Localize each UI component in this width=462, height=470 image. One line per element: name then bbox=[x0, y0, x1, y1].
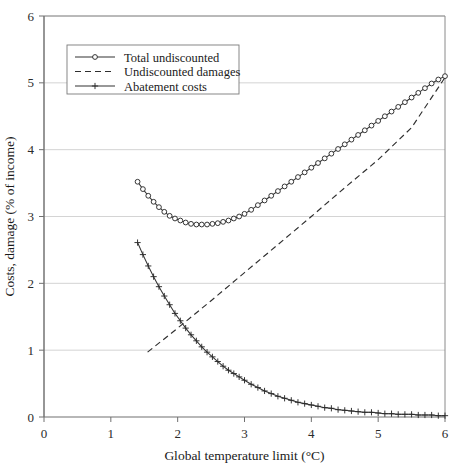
x-tick-label: 0 bbox=[41, 426, 48, 441]
y-tick-label: 4 bbox=[28, 142, 35, 157]
y-axis-title: Costs, damage (% of income) bbox=[2, 136, 17, 296]
x-tick-label: 4 bbox=[308, 426, 315, 441]
costs-damage-line-chart: 0123456 0123456 Global temperature limit… bbox=[0, 0, 462, 470]
y-tick-label: 5 bbox=[28, 75, 35, 90]
chart-figure: 0123456 0123456 Global temperature limit… bbox=[0, 0, 462, 470]
x-tick-label: 5 bbox=[375, 426, 382, 441]
y-tick-label: 3 bbox=[28, 209, 35, 224]
chart-legend: Total undiscountedUndiscounted damagesAb… bbox=[67, 45, 240, 94]
legend-label: Abatement costs bbox=[124, 80, 207, 94]
x-axis-title: Global temperature limit (°C) bbox=[164, 448, 324, 463]
x-tick-label: 3 bbox=[241, 426, 248, 441]
legend-label: Undiscounted damages bbox=[124, 65, 240, 79]
x-tick-label: 1 bbox=[108, 426, 115, 441]
y-tick-label: 2 bbox=[28, 276, 35, 291]
x-tick-label: 2 bbox=[174, 426, 181, 441]
y-tick-label: 6 bbox=[28, 9, 35, 24]
y-tick-label: 0 bbox=[28, 410, 35, 425]
legend-label: Total undiscounted bbox=[124, 51, 220, 65]
y-tick-label: 1 bbox=[28, 343, 35, 358]
x-tick-label: 6 bbox=[442, 426, 449, 441]
